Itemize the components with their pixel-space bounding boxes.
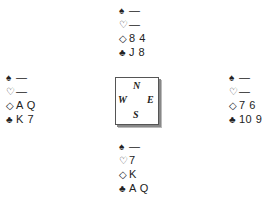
west-hearts: ♡— xyxy=(6,84,36,98)
heart-icon: ♡ xyxy=(6,85,16,99)
north-spades: ♠— xyxy=(119,3,146,17)
west-diamonds: ◇A Q xyxy=(6,98,36,112)
heart-icon: ♡ xyxy=(119,154,129,168)
diamond-icon: ◇ xyxy=(6,99,16,113)
spade-icon: ♠ xyxy=(6,71,16,85)
east-clubs: ♣10 9 xyxy=(229,112,262,126)
west-spades: ♠— xyxy=(6,70,36,84)
club-icon: ♣ xyxy=(119,182,129,196)
compass-west: W xyxy=(118,94,127,105)
spade-icon: ♠ xyxy=(229,71,239,85)
heart-icon: ♡ xyxy=(119,18,129,32)
spade-icon: ♠ xyxy=(119,4,129,18)
compass-box: N W E S xyxy=(115,77,159,125)
north-clubs: ♣J 8 xyxy=(119,45,146,59)
east-hand: ♠— ♡— ◇7 6 ♣10 9 xyxy=(229,70,262,126)
heart-icon: ♡ xyxy=(229,85,239,99)
compass-south: S xyxy=(133,109,139,120)
west-clubs: ♣K 7 xyxy=(6,112,36,126)
north-hand: ♠— ♡— ◇8 4 ♣J 8 xyxy=(119,3,146,59)
diamond-icon: ◇ xyxy=(119,32,129,46)
east-spades: ♠— xyxy=(229,70,262,84)
south-hand: ♠— ♡7 ◇K ♣A Q xyxy=(119,139,149,195)
west-hand: ♠— ♡— ◇A Q ♣K 7 xyxy=(6,70,36,126)
diamond-icon: ◇ xyxy=(229,99,239,113)
north-diamonds: ◇8 4 xyxy=(119,31,146,45)
compass-north: N xyxy=(133,80,140,91)
south-spades: ♠— xyxy=(119,139,149,153)
club-icon: ♣ xyxy=(119,46,129,60)
east-diamonds: ◇7 6 xyxy=(229,98,262,112)
club-icon: ♣ xyxy=(6,113,16,127)
diamond-icon: ◇ xyxy=(119,168,129,182)
south-hearts: ♡7 xyxy=(119,153,149,167)
east-hearts: ♡— xyxy=(229,84,262,98)
compass-east: E xyxy=(147,94,154,105)
north-hearts: ♡— xyxy=(119,17,146,31)
spade-icon: ♠ xyxy=(119,140,129,154)
south-clubs: ♣A Q xyxy=(119,181,149,195)
club-icon: ♣ xyxy=(229,113,239,127)
south-diamonds: ◇K xyxy=(119,167,149,181)
